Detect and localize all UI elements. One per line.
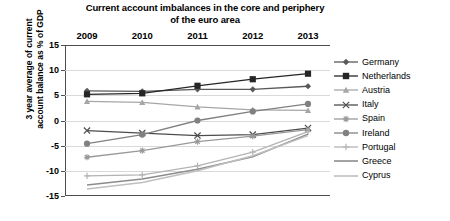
chart-legend: GermanyNetherlandsAustriaItalySpainIrela… [333, 55, 450, 183]
marker-circle [250, 108, 256, 114]
legend-label: Greece [362, 157, 392, 166]
y-tick-label: 10 [49, 65, 59, 75]
chart-container: Current account imbalances in the core a… [0, 0, 450, 221]
marker-diamond [343, 59, 349, 65]
chart-title-line-2: of the euro area [55, 14, 355, 26]
legend-key-netherlands [333, 69, 359, 83]
marker-square [84, 91, 90, 97]
marker-asterisk [194, 139, 200, 145]
legend-label: Austria [362, 86, 390, 95]
marker-circle [305, 101, 311, 107]
y-tick-label: -5 [51, 141, 59, 151]
marker-circle [194, 117, 200, 123]
chart-title: Current account imbalances in the core a… [55, 2, 355, 26]
marker-diamond [305, 83, 311, 89]
legend-item-netherlands[interactable]: Netherlands [333, 69, 450, 83]
legend-item-cyprus[interactable]: Cyprus [333, 169, 450, 183]
marker-plus [84, 173, 90, 179]
marker-square [305, 71, 311, 77]
plot-area: 151050-5-10-15 20092010201120122013 [65, 45, 330, 196]
marker-diamond [250, 86, 256, 92]
legend-label: Portugal [362, 143, 396, 152]
legend-key-cyprus [333, 169, 359, 183]
legend-label: Netherlands [362, 72, 411, 81]
legend-item-greece[interactable]: Greece [333, 154, 450, 168]
y-tick-label: -10 [46, 166, 59, 176]
legend-item-spain[interactable]: Spain [333, 112, 450, 126]
legend-item-germany[interactable]: Germany [333, 55, 450, 69]
y-axis-label: 3 year average of current account balanc… [24, 0, 46, 149]
legend-item-ireland[interactable]: Ireland [333, 126, 450, 140]
series-italy [84, 125, 311, 139]
legend-key-portugal [333, 140, 359, 154]
x-tick-label-2009: 2009 [76, 30, 97, 41]
legend-key-greece [333, 154, 359, 168]
y-axis-label-line-1: 3 year average of current [24, 0, 35, 149]
legend-key-ireland [333, 126, 359, 140]
y-tick-label: 5 [54, 90, 59, 100]
marker-asterisk [139, 148, 145, 154]
marker-square [139, 90, 145, 96]
legend-label: Italy [362, 100, 379, 109]
legend-label: Ireland [362, 129, 390, 138]
legend-key-spain [333, 112, 359, 126]
legend-item-austria[interactable]: Austria [333, 83, 450, 97]
legend-key-austria [333, 83, 359, 97]
legend-label: Spain [362, 114, 385, 123]
series-austria [84, 98, 311, 113]
marker-square [194, 83, 200, 89]
chart-title-line-1: Current account imbalances in the core a… [55, 2, 355, 14]
marker-asterisk [250, 133, 256, 139]
x-tick-label-2013: 2013 [297, 30, 318, 41]
marker-circle [139, 131, 145, 137]
y-tick-label: 15 [49, 40, 59, 50]
marker-square [250, 76, 256, 82]
marker-circle [84, 141, 90, 147]
marker-asterisk [84, 154, 90, 160]
legend-item-italy[interactable]: Italy [333, 98, 450, 112]
y-tick-label: 0 [54, 116, 59, 126]
x-tick-label-2011: 2011 [187, 30, 208, 41]
y-axis-label-line-2: account balance as % of GDP [35, 0, 46, 149]
x-tick-label-2012: 2012 [242, 30, 263, 41]
series-netherlands [84, 71, 311, 98]
marker-plus [343, 144, 349, 150]
legend-item-portugal[interactable]: Portugal [333, 140, 450, 154]
marker-square [343, 73, 349, 79]
y-tick-label: -15 [46, 191, 59, 201]
y-tick-mark [61, 196, 65, 197]
legend-label: Germany [362, 58, 399, 67]
marker-plus [139, 172, 145, 178]
marker-asterisk [343, 116, 349, 122]
marker-plus [194, 163, 200, 169]
legend-key-italy [333, 98, 359, 112]
legend-key-germany [333, 55, 359, 69]
legend-label: Cyprus [362, 171, 391, 180]
series-layer [65, 45, 330, 196]
marker-circle [343, 130, 349, 136]
x-tick-label-2010: 2010 [132, 30, 153, 41]
